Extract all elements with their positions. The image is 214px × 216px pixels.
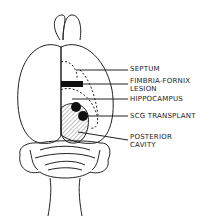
label-scg-transplant: SCG TRANSPLANT [130,113,196,120]
fimbria-fornix-lesion-bar [61,81,83,87]
label-cavity: CAVITY [130,142,156,149]
label-fimbria-fornix: FIMBRIA-FORNIX [130,78,190,85]
brain-diagram [0,0,214,216]
scg-transplant-dot-1 [71,102,81,112]
left-hemisphere [18,45,61,144]
label-posterior: POSTERIOR [130,134,172,141]
label-septum: SEPTUM [130,66,160,73]
brainstem [48,178,51,216]
olfactory-bulb-right [63,15,81,40]
label-hippocampus: HIPPOCAMPUS [130,96,183,103]
label-lesion: LESION [130,86,157,93]
septum-outline [61,62,77,80]
scg-transplant-dot-2 [78,111,88,121]
